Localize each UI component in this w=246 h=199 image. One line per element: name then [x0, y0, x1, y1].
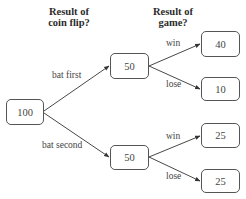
header-game-line1: Result of: [142, 6, 204, 17]
label-bat-second: bat second: [42, 140, 82, 150]
label-first-lose: lose: [166, 79, 181, 89]
node-bat-second-lose: 25: [201, 169, 240, 193]
node-bat-first-lose: 10: [201, 77, 240, 101]
header-coin-flip: Result of coin flip?: [38, 6, 100, 28]
probability-tree-diagram: Result of coin flip? Result of game? 100…: [0, 0, 246, 199]
node-bat-first-win: 40: [201, 31, 240, 57]
header-coin-flip-line1: Result of: [38, 6, 100, 17]
node-bat-second-win: 25: [201, 123, 240, 148]
label-first-win: win: [166, 38, 180, 48]
header-coin-flip-line2: coin flip?: [38, 17, 100, 28]
label-bat-first: bat first: [52, 70, 81, 80]
node-root: 100: [6, 99, 44, 125]
label-second-win: win: [166, 131, 180, 141]
header-game: Result of game?: [142, 6, 204, 28]
header-game-line2: game?: [142, 17, 204, 28]
node-bat-second: 50: [110, 145, 149, 170]
label-second-lose: lose: [166, 171, 181, 181]
node-bat-first: 50: [110, 53, 149, 79]
edge-bat-second: [44, 113, 109, 157]
